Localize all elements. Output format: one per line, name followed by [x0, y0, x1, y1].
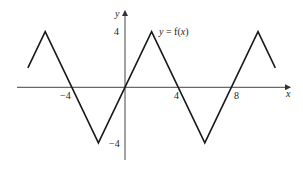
graph: y x 4 −4 −4 4 8 y = f(x) — [0, 0, 303, 170]
y-axis-label: y — [114, 8, 120, 19]
y-tick-4: 4 — [114, 26, 119, 37]
x-tick-8: 8 — [234, 90, 239, 101]
x-tick-neg4: −4 — [60, 90, 71, 101]
x-tick-4: 4 — [174, 90, 179, 101]
x-axis-label: x — [285, 88, 291, 99]
function-label: y = f(x) — [158, 26, 189, 38]
y-tick-neg4: −4 — [109, 138, 120, 149]
